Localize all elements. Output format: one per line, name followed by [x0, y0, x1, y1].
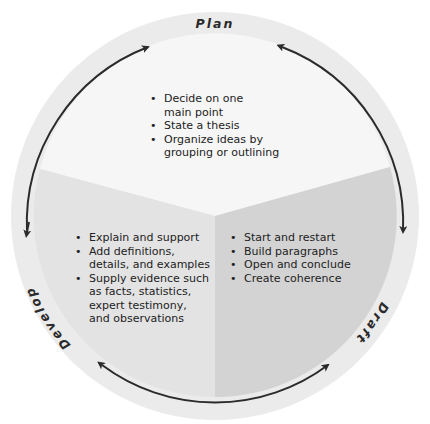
develop-item: Supply evidence suchas facts, statistics… — [75, 272, 215, 326]
plan-item: State a thesis — [150, 119, 340, 133]
develop-item: Explain and support — [75, 231, 215, 245]
draft-items: Start and restart Build paragraphs Open … — [230, 231, 370, 285]
cycle-graphic: Plan Draft Develop — [0, 0, 430, 424]
plan-item: Organize ideas bygrouping or outlining — [150, 133, 340, 160]
draft-item: Build paragraphs — [230, 245, 370, 259]
develop-items: Explain and support Add definitions,deta… — [75, 231, 215, 326]
plan-item: Decide on onemain point — [150, 92, 340, 119]
draft-item: Open and conclude — [230, 258, 370, 272]
develop-item: Add definitions,details, and examples — [75, 245, 215, 272]
draft-item: Start and restart — [230, 231, 370, 245]
writing-process-cycle-diagram: Plan Draft Develop Decide on onemain poi… — [0, 0, 430, 424]
plan-label: Plan — [196, 16, 235, 31]
draft-item: Create coherence — [230, 272, 370, 286]
plan-items: Decide on onemain point State a thesis O… — [150, 92, 340, 160]
